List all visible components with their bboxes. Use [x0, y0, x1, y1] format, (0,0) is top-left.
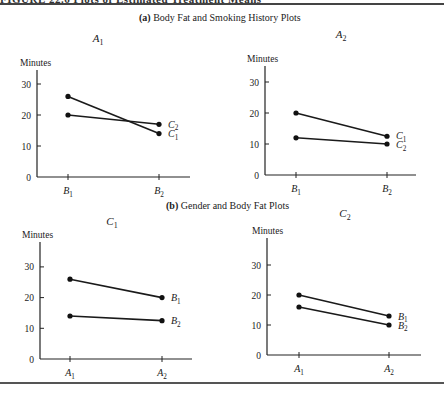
data-point — [296, 304, 301, 309]
y-axis-label: Minutes — [247, 54, 278, 64]
series-line-b1 — [299, 295, 389, 316]
y-tick-label: 10 — [25, 324, 35, 334]
y-tick-label: 30 — [22, 80, 32, 90]
data-point — [67, 313, 72, 318]
data-point — [156, 122, 161, 127]
plot-a2: A2Minutes0102030B1B2C1C2 — [247, 28, 416, 197]
y-axis-label: Minutes — [20, 58, 51, 68]
data-point — [156, 131, 161, 136]
y-tick-label: 0 — [254, 171, 259, 181]
x-tick-label: B1 — [291, 183, 301, 197]
series-line-c1 — [296, 113, 387, 136]
x-tick-label: B1 — [63, 185, 73, 199]
series-line-c1 — [68, 96, 159, 133]
y-tick-label: 10 — [252, 321, 262, 331]
y-tick-label: 0 — [256, 351, 261, 361]
y-tick-label: 0 — [26, 173, 31, 183]
plot-a1: A1Minutes0102030B1B2C2C1 — [20, 32, 190, 199]
y-tick-label: 10 — [22, 142, 32, 152]
plot-title: C1 — [106, 215, 117, 230]
y-tick-label: 20 — [252, 291, 262, 301]
y-tick-label: 30 — [252, 261, 262, 271]
data-point — [159, 318, 164, 323]
data-point — [386, 313, 391, 318]
y-tick-label: 20 — [250, 109, 260, 119]
data-point — [384, 134, 389, 139]
plot-c2: C2Minutes0102030A1A2B1B2 — [252, 207, 422, 377]
data-point — [65, 94, 70, 99]
series-line-b2 — [70, 316, 162, 321]
x-tick-label: A2 — [156, 367, 167, 381]
x-tick-label: B2 — [382, 183, 392, 197]
series-line-c2 — [296, 138, 387, 144]
series-line-b2 — [299, 307, 389, 325]
x-tick-label: A1 — [293, 363, 304, 377]
y-tick-label: 30 — [25, 262, 35, 272]
bottom-divider — [0, 382, 444, 384]
data-point — [384, 141, 389, 146]
series-label-b1: B1 — [171, 292, 181, 306]
data-point — [293, 135, 298, 140]
data-point — [67, 277, 72, 282]
y-tick-label: 20 — [25, 293, 35, 303]
data-point — [293, 110, 298, 115]
data-point — [159, 295, 164, 300]
series-line-b1 — [70, 279, 162, 297]
data-point — [65, 112, 70, 117]
y-axis-label: Minutes — [252, 226, 283, 236]
y-axis-label: Minutes — [22, 230, 53, 240]
y-tick-label: 30 — [250, 78, 260, 88]
series-label-b2: B2 — [171, 315, 181, 329]
plot-title: C2 — [339, 207, 350, 222]
interaction-plots: A1Minutes0102030B1B2C2C1A2Minutes0102030… — [0, 0, 444, 398]
plot-c1: C1Minutes0102030A1A2B1B2 — [22, 215, 192, 381]
y-tick-label: 10 — [250, 140, 260, 150]
x-tick-label: A1 — [64, 367, 75, 381]
plot-title: A1 — [92, 32, 104, 47]
y-tick-label: 20 — [22, 111, 32, 121]
x-tick-label: A2 — [383, 363, 394, 377]
plot-title: A2 — [335, 28, 347, 43]
series-line-c2 — [68, 115, 159, 124]
x-tick-label: B2 — [154, 185, 164, 199]
data-point — [296, 292, 301, 297]
y-tick-label: 0 — [29, 355, 34, 365]
data-point — [386, 322, 391, 327]
